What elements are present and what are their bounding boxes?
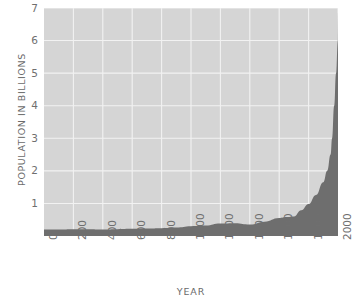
x-tick-label: 1600 [283,213,294,240]
x-tick-label: 1400 [254,213,265,240]
x-tick-label: 600 [136,220,147,240]
y-tick-label: 7 [22,3,38,14]
x-tick-label: 1200 [224,213,235,240]
x-tick-label: 800 [166,220,177,240]
y-axis-title: POPULATION IN BILLIONS [16,15,27,225]
population-growth-chart: POPULATION IN BILLIONS 1234567 020040060… [0,0,356,305]
x-tick-label: 1000 [195,213,206,240]
x-tick-label: 400 [107,220,118,240]
x-axis-title: YEAR [44,286,338,297]
plot-svg [44,8,338,236]
plot-area [44,8,338,236]
vertical-gridlines [73,8,338,236]
x-tick-label: 200 [77,220,88,240]
x-tick-label: 2000 [342,213,353,240]
x-tick-label: 1800 [313,213,324,240]
x-tick-label: 0 [48,233,59,240]
